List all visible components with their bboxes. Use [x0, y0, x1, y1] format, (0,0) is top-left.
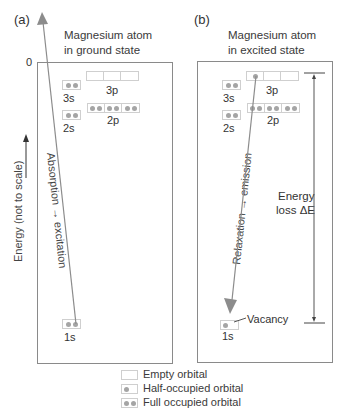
legend-half-label: Half-occupied orbital [143, 382, 243, 394]
legend-empty-swatch [121, 370, 138, 380]
legend-full-label: Full occupied orbital [143, 396, 241, 408]
legend-half-swatch [121, 384, 138, 394]
legend-full-swatch [121, 398, 138, 408]
legend-empty-label: Empty orbital [143, 368, 207, 380]
diagram-arrows [0, 0, 348, 416]
